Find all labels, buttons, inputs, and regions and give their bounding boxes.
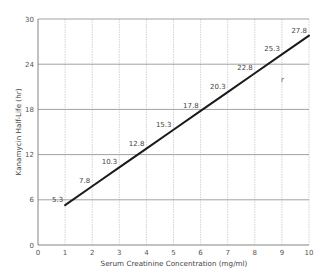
y-tick-label: 18 <box>25 106 34 114</box>
x-tick-label: 1 <box>63 249 67 257</box>
y-tick-label: 30 <box>25 16 34 24</box>
data-label: 15.3 <box>156 121 172 129</box>
x-tick-label: 7 <box>225 249 229 257</box>
data-label: 5.3 <box>52 196 63 204</box>
data-line <box>65 36 309 206</box>
x-tick-label: 0 <box>36 249 40 257</box>
x-tick-label: 4 <box>144 249 149 257</box>
data-label: 22.8 <box>237 64 253 72</box>
x-tick-labels: 012345678910 <box>36 249 314 257</box>
data-label: 17.8 <box>183 102 199 110</box>
y-tick-label: 6 <box>30 196 35 204</box>
x-tick-label: 3 <box>117 249 121 257</box>
x-tick-label: 5 <box>171 249 175 257</box>
y-tick-label: 24 <box>25 61 34 69</box>
x-axis-label: Serum Creatinine Concentration (mg/ml) <box>101 259 248 268</box>
data-label: 10.3 <box>102 158 118 166</box>
data-label: 12.8 <box>129 140 145 148</box>
data-label: 25.3 <box>264 45 280 53</box>
x-tick-label: 9 <box>280 249 284 257</box>
x-tick-label: 8 <box>253 249 257 257</box>
x-tick-label: 6 <box>198 249 203 257</box>
stray-mark: r <box>281 76 284 84</box>
chart: 0612182430 012345678910 5.37.810.312.815… <box>0 0 325 273</box>
data-label: 7.8 <box>79 177 90 185</box>
data-label: 27.8 <box>291 27 307 35</box>
y-tick-label: 12 <box>25 151 34 159</box>
x-tick-label: 2 <box>90 249 94 257</box>
data-label: 20.3 <box>210 83 226 91</box>
y-tick-labels: 0612182430 <box>25 16 34 250</box>
x-tick-label: 10 <box>305 249 314 257</box>
y-axis-label: Kanamycin Half-Life (hr) <box>14 88 23 175</box>
data-labels: 5.37.810.312.815.317.820.322.825.327.8 <box>52 27 307 205</box>
y-tick-label: 0 <box>30 242 34 250</box>
